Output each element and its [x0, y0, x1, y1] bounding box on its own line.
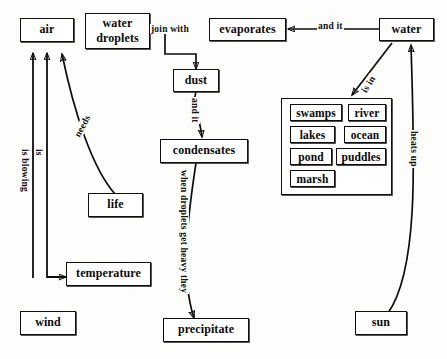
chip-swamps[interactable]: swamps [290, 104, 342, 121]
edge-label-needs: needs [72, 112, 93, 139]
chip-ocean-label: ocean [351, 129, 380, 141]
node-water-droplets[interactable]: water droplets [85, 13, 150, 49]
chip-puddles[interactable]: puddles [336, 148, 386, 165]
chip-puddles-label: puddles [341, 151, 380, 163]
node-air[interactable]: air [20, 18, 74, 42]
node-condensates-label: condensates [173, 144, 235, 157]
edge-label-is-in: is in [359, 73, 378, 95]
chip-river-label: river [355, 107, 380, 119]
node-dust[interactable]: dust [173, 69, 219, 92]
edge-wind-riser [47, 266, 66, 277]
edge-label-is-blowing: is blowing [20, 148, 30, 193]
concept-map-canvas: air water droplets evaporates water dust… [0, 0, 447, 359]
chip-river[interactable]: river [348, 104, 386, 121]
chip-lakes[interactable]: lakes [290, 126, 335, 143]
node-life[interactable]: life [88, 193, 143, 217]
node-precipitate-label: precipitate [178, 323, 234, 336]
node-water-label: water [392, 23, 422, 36]
node-wind[interactable]: wind [20, 311, 76, 335]
edge-droplets-to-dust [150, 30, 196, 69]
node-wind-label: wind [35, 316, 61, 329]
node-air-label: air [40, 23, 55, 36]
node-temperature-label: temperature [76, 267, 141, 280]
node-evaporates-label: evaporates [219, 23, 275, 36]
node-water[interactable]: water [379, 18, 434, 41]
edge-label-join-with: join with [150, 24, 190, 34]
chip-marsh-label: marsh [297, 173, 329, 185]
node-life-label: life [107, 198, 123, 211]
chip-pond[interactable]: pond [290, 148, 332, 165]
node-sun[interactable]: sun [355, 311, 407, 335]
chip-swamps-label: swamps [296, 107, 336, 119]
chip-marsh[interactable]: marsh [290, 170, 335, 187]
edge-label-and-it-top: and it [317, 21, 344, 31]
chip-lakes-label: lakes [300, 129, 325, 141]
node-condensates[interactable]: condensates [160, 139, 248, 163]
edge-label-and-it-dust: and it [190, 97, 200, 124]
edge-label-when-droplets-heavy: when droplets get heavy they [179, 169, 189, 294]
chip-pond-label: pond [298, 151, 323, 163]
edge-label-is: is [34, 148, 44, 157]
node-evaporates[interactable]: evaporates [209, 18, 286, 41]
node-sun-label: sun [372, 316, 390, 329]
node-precipitate[interactable]: precipitate [163, 318, 249, 342]
node-dust-label: dust [185, 74, 207, 87]
node-temperature[interactable]: temperature [66, 262, 151, 286]
chip-ocean[interactable]: ocean [344, 126, 386, 143]
edge-label-heats-up: heats up [409, 130, 419, 168]
node-water-droplets-label: water droplets [86, 16, 149, 45]
